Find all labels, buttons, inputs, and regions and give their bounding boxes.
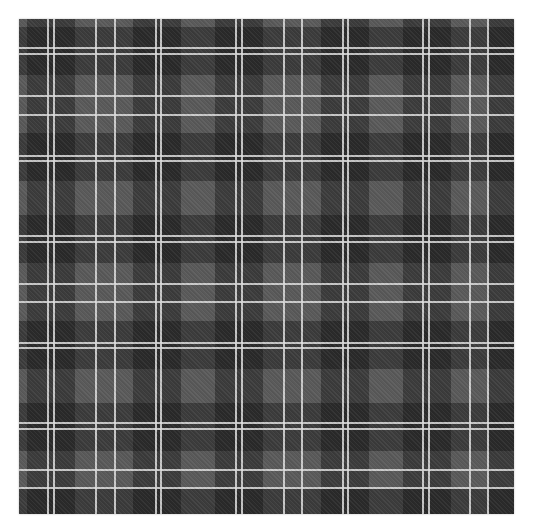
stripe-horizontal [19,155,514,157]
stripe-horizontal [19,95,514,97]
stripe-horizontal [19,283,514,285]
dark-band-horizontal [19,489,514,514]
stripe-vertical [422,19,424,514]
stripe-horizontal [19,301,514,303]
stripe-horizontal [19,342,514,344]
stripe-horizontal [19,53,514,55]
stripe-horizontal [19,487,514,489]
stripe-vertical [469,19,471,514]
stripe-horizontal [19,428,514,430]
stripe-vertical [283,19,285,514]
stripe-vertical [487,19,489,514]
stripe-vertical [95,19,97,514]
stripe-vertical [428,19,430,514]
stripe-vertical [114,19,116,514]
stripe-horizontal [19,160,514,162]
stripe-vertical [342,19,344,514]
stripe-horizontal [19,422,514,424]
tartan-pattern [19,19,514,514]
dark-band-vertical [489,19,514,514]
stripe-horizontal [19,47,514,49]
stripe-horizontal [19,469,514,471]
stripe-vertical [155,19,157,514]
stripe-vertical [53,19,55,514]
stripe-vertical [160,19,162,514]
stripe-vertical [47,19,49,514]
stripe-horizontal [19,347,514,349]
stripe-vertical [347,19,349,514]
stripe-vertical [241,19,243,514]
stripe-horizontal [19,241,514,243]
stripe-vertical [235,19,237,514]
stripe-horizontal [19,114,514,116]
dark-band-horizontal [19,403,514,451]
stripe-horizontal [19,235,514,237]
stripe-vertical [301,19,303,514]
